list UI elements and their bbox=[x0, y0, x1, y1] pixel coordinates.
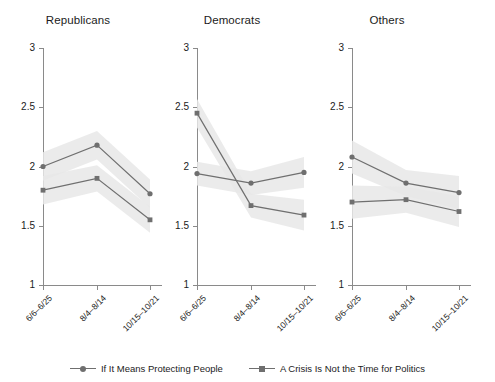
x-tick-label: 8/4–8/14 bbox=[365, 293, 417, 345]
data-point-marker bbox=[148, 217, 153, 222]
x-tick bbox=[406, 286, 407, 290]
legend-item-crisis-not-time-politics: A Crisis Is Not the Time for Politics bbox=[249, 363, 425, 374]
x-tick-label: 8/4–8/14 bbox=[210, 293, 262, 345]
x-axis-line bbox=[352, 285, 471, 286]
series-line bbox=[197, 113, 304, 215]
y-tick bbox=[39, 107, 43, 108]
legend-marker-square-icon bbox=[249, 364, 275, 374]
x-tick bbox=[197, 286, 198, 290]
y-tick bbox=[193, 226, 197, 227]
y-tick bbox=[193, 48, 197, 49]
x-tick bbox=[43, 286, 44, 290]
x-tick bbox=[150, 286, 151, 290]
y-tick-label: 1.5 bbox=[310, 220, 344, 231]
legend-label: If It Means Protecting People bbox=[101, 363, 223, 374]
x-axis-line bbox=[43, 285, 162, 286]
data-point-marker bbox=[302, 213, 307, 218]
series-line bbox=[352, 157, 459, 193]
x-tick bbox=[97, 286, 98, 290]
y-tick-label: 3 bbox=[1, 42, 35, 53]
data-point-marker bbox=[456, 190, 461, 195]
y-tick-label: 2.5 bbox=[1, 101, 35, 112]
y-tick-label: 2.5 bbox=[155, 101, 189, 112]
data-point-marker bbox=[301, 170, 306, 175]
x-tick-label: 6/6–6/25 bbox=[156, 293, 208, 345]
x-axis-line bbox=[197, 285, 316, 286]
x-tick-label: 6/6–6/25 bbox=[311, 293, 363, 345]
confidence-band bbox=[197, 99, 304, 231]
legend-item-protecting-people: If It Means Protecting People bbox=[70, 363, 223, 374]
y-tick bbox=[348, 107, 352, 108]
data-point-marker bbox=[94, 143, 99, 148]
y-tick bbox=[348, 167, 352, 168]
chart-canvas: Republicans11.522.536/6–6/258/4–8/1410/1… bbox=[0, 0, 495, 382]
x-tick-label: 10/15–10/21 bbox=[263, 293, 315, 345]
data-point-marker bbox=[249, 203, 254, 208]
data-point-marker bbox=[248, 180, 253, 185]
y-tick-label: 2 bbox=[1, 161, 35, 172]
data-point-marker bbox=[404, 197, 409, 202]
panel-title-others: Others bbox=[312, 14, 462, 26]
panel-title-democrats: Democrats bbox=[157, 14, 307, 26]
confidence-band bbox=[43, 131, 150, 208]
y-axis-line bbox=[197, 48, 198, 285]
series-line bbox=[197, 172, 304, 183]
legend-label: A Crisis Is Not the Time for Politics bbox=[280, 363, 425, 374]
x-tick bbox=[459, 286, 460, 290]
confidence-band bbox=[352, 185, 459, 226]
series-line bbox=[352, 200, 459, 212]
data-point-marker bbox=[403, 180, 408, 185]
confidence-band bbox=[197, 157, 304, 195]
y-tick-label: 2 bbox=[310, 161, 344, 172]
y-tick bbox=[39, 48, 43, 49]
series-line bbox=[43, 178, 150, 219]
y-tick-label: 3 bbox=[155, 42, 189, 53]
y-tick bbox=[348, 226, 352, 227]
y-tick bbox=[39, 226, 43, 227]
x-tick bbox=[352, 286, 353, 290]
x-tick bbox=[251, 286, 252, 290]
y-tick bbox=[348, 48, 352, 49]
y-tick-label: 2 bbox=[155, 161, 189, 172]
x-tick-label: 10/15–10/21 bbox=[418, 293, 470, 345]
y-tick-label: 3 bbox=[310, 42, 344, 53]
y-axis-line bbox=[43, 48, 44, 285]
series-line bbox=[43, 145, 150, 194]
y-tick-label: 1 bbox=[155, 279, 189, 290]
legend-marker-circle-icon bbox=[70, 364, 96, 374]
y-tick bbox=[193, 107, 197, 108]
y-tick bbox=[39, 167, 43, 168]
chart-legend: If It Means Protecting People A Crisis I… bbox=[0, 363, 495, 374]
y-tick-label: 1.5 bbox=[1, 220, 35, 231]
x-tick-label: 6/6–6/25 bbox=[2, 293, 54, 345]
x-tick bbox=[304, 286, 305, 290]
confidence-band bbox=[352, 140, 459, 209]
y-tick-label: 1 bbox=[1, 279, 35, 290]
data-point-marker bbox=[457, 209, 462, 214]
y-tick-label: 1 bbox=[310, 279, 344, 290]
x-tick-label: 10/15–10/21 bbox=[109, 293, 161, 345]
y-tick-label: 2.5 bbox=[310, 101, 344, 112]
x-tick-label: 8/4–8/14 bbox=[56, 293, 108, 345]
y-tick bbox=[193, 167, 197, 168]
data-point-marker bbox=[147, 191, 152, 196]
y-tick-label: 1.5 bbox=[155, 220, 189, 231]
confidence-band bbox=[43, 165, 150, 233]
panel-title-republicans: Republicans bbox=[3, 14, 153, 26]
y-axis-line bbox=[352, 48, 353, 285]
data-point-marker bbox=[95, 176, 100, 181]
